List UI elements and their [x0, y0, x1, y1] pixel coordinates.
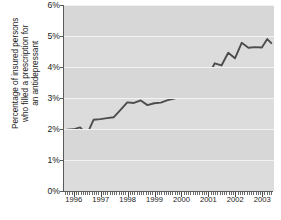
plot-band [64, 5, 274, 36]
gridline [64, 5, 274, 6]
y-axis-tick-label: 0% [34, 186, 60, 196]
y-axis-title-line-2: who filled a prescription for [21, 0, 31, 159]
x-axis-tick-label: 1997 [88, 195, 114, 204]
cropped-caption [8, 212, 198, 220]
x-axis-tick-label: 2000 [168, 195, 194, 204]
gridline [64, 98, 274, 99]
y-axis-tick-mark [60, 36, 64, 37]
y-axis-title-line-1: Percentage of insured persons [11, 0, 21, 159]
x-axis-tick-label: 2001 [195, 195, 221, 204]
y-axis-tick-label: 4% [34, 62, 60, 72]
y-axis-tick-label: 6% [34, 0, 60, 10]
gridline [64, 160, 274, 161]
y-axis-tick-label: 5% [34, 31, 60, 41]
x-axis-tick-label: 1999 [142, 195, 168, 204]
y-axis-tick-mark [60, 5, 64, 6]
gridline [64, 129, 274, 130]
y-axis-tick-mark [60, 160, 64, 161]
antidepressant-prescription-chart: Percentage of insured persons who filled… [0, 0, 281, 220]
plot-area [63, 5, 274, 191]
gridline [64, 36, 274, 37]
gridline [64, 67, 274, 68]
x-axis-tick-label: 1996 [61, 195, 87, 204]
x-axis-tick-label: 2002 [222, 195, 248, 204]
plot-band [64, 67, 274, 98]
y-axis-title: Percentage of insured persons who filled… [11, 0, 42, 159]
y-axis-tick-label: 2% [34, 124, 60, 134]
y-axis-tick-mark [60, 98, 64, 99]
x-axis-tick-label: 2003 [249, 195, 275, 204]
y-axis-tick-mark [60, 129, 64, 130]
y-axis-title-line-3: an antidepressant [31, 0, 41, 159]
y-axis-tick-label: 1% [34, 155, 60, 165]
x-axis-tick-label: 1998 [115, 195, 141, 204]
y-axis-tick-mark [60, 67, 64, 68]
plot-band [64, 129, 274, 160]
y-axis-tick-label: 3% [34, 93, 60, 103]
